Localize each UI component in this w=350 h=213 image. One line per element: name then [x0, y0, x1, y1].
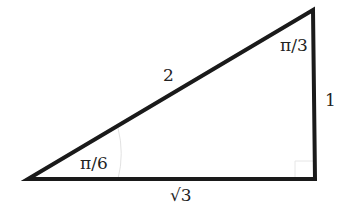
right-angle-marker	[295, 161, 313, 179]
angle-arc-pi-6	[118, 128, 121, 179]
triangle	[28, 10, 315, 179]
label-vertical-side: 1	[325, 90, 336, 110]
label-base: √3	[170, 185, 192, 205]
label-angle-pi-3: π/3	[280, 35, 308, 55]
label-angle-pi-6: π/6	[80, 153, 108, 173]
label-hypotenuse: 2	[163, 65, 174, 85]
triangle-diagram: 2 1 √3 π/6 π/3	[0, 0, 350, 213]
